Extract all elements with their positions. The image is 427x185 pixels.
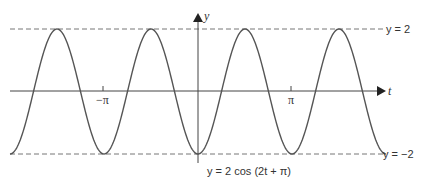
tick-label-minus-pi: −π	[96, 93, 109, 107]
t-axis-arrow-icon	[377, 86, 386, 96]
y-axis-arrow-icon	[193, 13, 203, 22]
equation-caption: y = 2 cos (2t + π)	[207, 165, 291, 177]
t-axis-label: t	[388, 84, 392, 98]
tick-label-pi: π	[288, 93, 294, 107]
lower-bound-label: y = −2	[383, 148, 414, 160]
y-axis-label: y	[203, 9, 210, 23]
upper-bound-label: y = 2	[386, 23, 410, 35]
cosine-graph: y t −π π y = 2 y = −2 y = 2 cos (2t + π)	[0, 0, 427, 185]
